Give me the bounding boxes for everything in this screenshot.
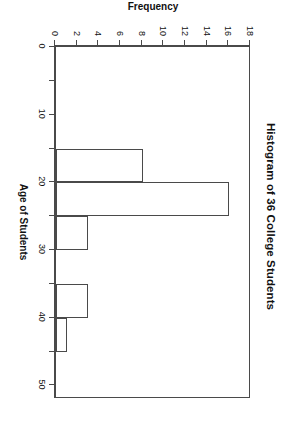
x-axis-tick-label: 10: [37, 109, 47, 119]
x-axis-tick-label: 20: [37, 176, 47, 186]
y-axis-tick: [54, 40, 55, 45]
y-axis-tick: [76, 40, 77, 45]
y-axis-tick-label: 10: [158, 26, 168, 36]
y-axis-label: Frequency: [128, 1, 179, 12]
histogram-bar: [56, 149, 143, 183]
y-axis-tick-label: 4: [93, 31, 103, 36]
x-axis-tick: [49, 351, 54, 352]
y-axis-tick-label: 16: [223, 26, 233, 36]
y-axis-tick-label: 18: [245, 26, 255, 36]
x-axis-tick-label: 0: [37, 43, 47, 48]
y-axis-tick: [206, 40, 207, 45]
y-axis-tick-label: 8: [137, 31, 147, 36]
y-axis-tick-label: 6: [115, 31, 125, 36]
x-axis-tick: [49, 283, 54, 284]
x-axis-tick: [49, 148, 54, 149]
x-axis-line: [54, 46, 55, 398]
x-axis-tick: [49, 384, 54, 385]
x-axis-tick: [49, 80, 54, 81]
y-axis-tick: [119, 40, 120, 45]
plot-panel: [55, 46, 250, 398]
histogram-bar: [56, 216, 89, 250]
rotated-figure-container: Histogram of 36 College Students 0102030…: [0, 0, 291, 433]
histogram-bar: [56, 182, 229, 216]
x-axis-tick: [49, 215, 54, 216]
x-axis-tick-label: 30: [37, 244, 47, 254]
y-axis-tick: [141, 40, 142, 45]
histogram-bar: [56, 318, 67, 352]
y-axis-line: [54, 45, 250, 46]
y-axis-tick-label: 0: [50, 31, 60, 36]
y-axis-tick-label: 14: [202, 26, 212, 36]
y-axis-tick: [162, 40, 163, 45]
bar-series: [56, 47, 249, 397]
histogram-bar: [56, 284, 89, 318]
x-axis-tick-label: 50: [37, 379, 47, 389]
y-axis-tick: [97, 40, 98, 45]
x-axis-tick: [49, 181, 54, 182]
x-axis-tick: [49, 114, 54, 115]
y-axis-tick-label: 12: [180, 26, 190, 36]
x-axis-tick-label: 40: [37, 312, 47, 322]
y-axis-tick: [184, 40, 185, 45]
x-axis-tick: [49, 317, 54, 318]
x-axis-tick: [49, 249, 54, 250]
x-axis-tick: [49, 46, 54, 47]
y-axis-tick-label: 2: [72, 31, 82, 36]
y-axis-tick: [249, 40, 250, 45]
page-title: Histogram of 36 College Students: [265, 0, 277, 433]
x-axis-label: Age of Students: [18, 46, 29, 398]
y-axis-tick: [227, 40, 228, 45]
histogram-figure: Histogram of 36 College Students 0102030…: [0, 0, 291, 433]
